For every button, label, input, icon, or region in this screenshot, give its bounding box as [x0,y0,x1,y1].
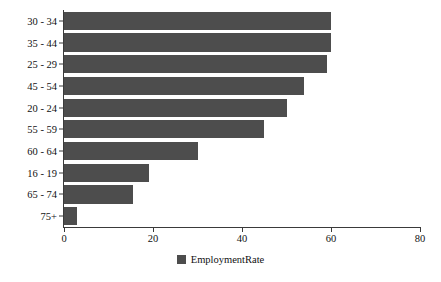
y-tick-mark [59,216,64,217]
x-tick-label: 20 [148,233,159,244]
y-tick-label: 35 - 44 [27,37,57,48]
y-tick-mark [59,107,64,108]
bar-75plus [64,207,77,225]
legend-label-employmentrate: EmploymentRate [191,254,265,265]
x-tick-mark [331,227,332,232]
y-tick-mark [59,151,64,152]
bar-row [64,55,420,73]
bar-25-29 [64,55,327,73]
y-tick-label: 75+ [41,211,57,222]
x-tick-label: 40 [237,233,248,244]
x-tick-label: 0 [61,233,66,244]
bar-row [64,99,420,117]
bar-20-24 [64,99,287,117]
bar-30-34 [64,12,331,30]
plot-area [64,10,420,227]
y-tick-label: 65 - 74 [27,189,57,200]
legend-swatch-employmentrate [177,255,186,264]
bar-row [64,142,420,160]
y-tick-mark [59,129,64,130]
bar-row [64,207,420,225]
y-tick-label: 20 - 24 [27,102,57,113]
y-tick-mark [59,194,64,195]
x-tick-label: 60 [326,233,337,244]
y-tick-mark [59,42,64,43]
bar-row [64,77,420,95]
x-tick-mark [153,227,154,232]
y-tick-mark [59,85,64,86]
y-tick-label: 25 - 29 [27,59,57,70]
bar-60-64 [64,142,198,160]
bar-16-19 [64,164,149,182]
x-tick-label: 80 [415,233,426,244]
y-axis-labels: 30 - 3435 - 4425 - 2945 - 5420 - 2455 - … [0,0,57,282]
y-tick-label: 55 - 59 [27,124,57,135]
bar-row [64,120,420,138]
bar-row [64,185,420,203]
bar-65-74 [64,185,133,203]
x-tick-mark [64,227,65,232]
bar-chart: 30 - 3435 - 4425 - 2945 - 5420 - 2455 - … [0,0,441,282]
bar-45-54 [64,77,304,95]
y-tick-label: 45 - 54 [27,80,57,91]
x-tick-mark [420,227,421,232]
x-tick-mark [242,227,243,232]
y-tick-label: 16 - 19 [27,167,57,178]
bar-55-59 [64,120,264,138]
bar-row [64,33,420,51]
bar-row [64,164,420,182]
y-tick-label: 60 - 64 [27,146,57,157]
bar-row [64,12,420,30]
y-tick-mark [59,20,64,21]
y-tick-mark [59,64,64,65]
bar-35-44 [64,33,331,51]
y-tick-label: 30 - 34 [27,15,57,26]
chart-legend: EmploymentRate [0,254,441,265]
y-tick-mark [59,172,64,173]
